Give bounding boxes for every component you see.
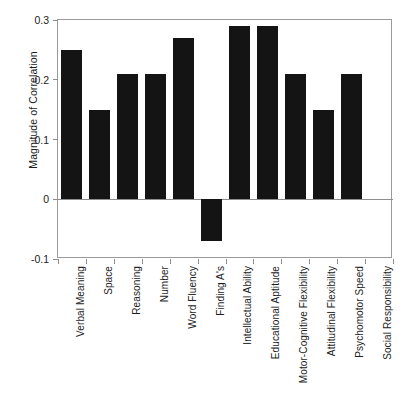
zero-baseline <box>58 199 393 200</box>
y-axis-tick-label: -0.1 <box>31 253 49 265</box>
bar <box>117 74 138 199</box>
y-axis-tick-mark <box>53 139 58 140</box>
y-axis-tick-mark <box>53 20 58 21</box>
x-axis-tick-mark <box>365 259 366 264</box>
x-axis-tick-mark <box>226 259 227 264</box>
bar <box>145 74 166 199</box>
bar <box>285 74 306 199</box>
x-axis-tick-mark <box>337 259 338 264</box>
bar <box>61 50 82 199</box>
x-axis-tick-mark <box>253 259 254 264</box>
y-axis-tick-label: 0 <box>43 193 49 205</box>
x-axis-tick-mark <box>86 259 87 264</box>
bar <box>173 38 194 199</box>
x-axis-tick-label: Attitudinal Flexibility <box>326 266 337 406</box>
bar <box>89 110 110 200</box>
plot-area: 0.30.20.10-0.1 <box>57 19 392 258</box>
x-axis-tick-mark <box>393 259 394 264</box>
bar <box>229 26 250 199</box>
x-axis-tick-label: Educational Aptitude <box>270 266 281 406</box>
y-axis-tick-label: 0.1 <box>34 134 49 146</box>
x-axis-tick-mark <box>114 259 115 264</box>
x-axis-tick-mark <box>142 259 143 264</box>
x-axis-tick-label: Reasoning <box>131 266 142 406</box>
x-axis-tick-label: Intellectual Ability <box>242 266 253 406</box>
bar <box>341 74 362 199</box>
bar <box>257 26 278 199</box>
x-axis-tick-label: Finding A's <box>215 266 226 406</box>
x-axis-tick-label: Number <box>159 266 170 406</box>
x-axis-tick-label: Word Fluency <box>187 266 198 406</box>
y-axis-title: Magnitude of Correlation <box>27 25 39 195</box>
x-axis-tick-mark <box>58 259 59 264</box>
x-axis-tick-mark <box>309 259 310 264</box>
x-axis-tick-mark <box>198 259 199 264</box>
x-axis-tick-label: Space <box>103 266 114 406</box>
x-axis-tick-label: Psychomotor Speed <box>354 266 365 406</box>
bar <box>201 199 222 241</box>
x-axis-tick-label: Motor-Cognitive Flexibility <box>298 266 309 406</box>
y-axis-tick-mark <box>53 79 58 80</box>
y-axis-tick-label: 0.2 <box>34 74 49 86</box>
x-axis-tick-mark <box>170 259 171 264</box>
bar-chart-figure: Magnitude of Correlation 0.30.20.10-0.1 … <box>0 0 409 406</box>
x-axis-tick-label: Verbal Meaning <box>75 266 86 406</box>
y-axis-tick-label: 0.3 <box>34 14 49 26</box>
bar <box>313 110 334 200</box>
x-axis-tick-mark <box>281 259 282 264</box>
x-axis-tick-label: Social Responsibility <box>382 266 393 406</box>
